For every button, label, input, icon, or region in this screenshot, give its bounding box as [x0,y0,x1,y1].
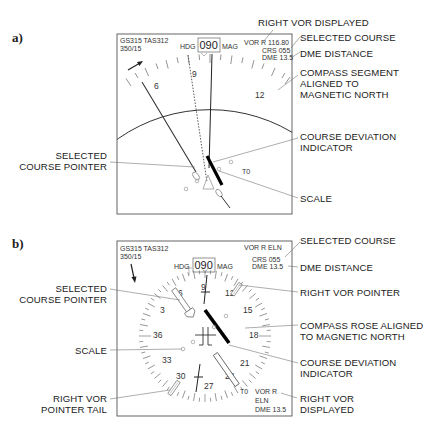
callout-selected-course: SELECTED COURSE [300,235,396,246]
hdg-label: HDG [180,43,196,50]
wind-readout: 350/15 [120,45,142,52]
callout-compass-rose: COMPASS ROSE ALIGNED TO MAGNETIC NORTH [300,320,423,342]
callout-right-vor-pointer: RIGHT VOR POINTER [300,287,400,298]
scale-label-6: 6 [154,81,159,91]
dme-readout: DME 13.5 [262,54,293,61]
rose-label-30: 30 [176,371,186,381]
bottom-vor-ident: ELN [255,397,269,404]
callout-course-deviation-indicator: COURSE DEVIATION INDICATOR [300,357,396,379]
rose-label-18: 18 [249,330,259,340]
dme-readout: DME 13.5 [252,263,283,270]
panel-a-label: a) [12,30,23,46]
to-from-indicator: T0 [242,168,250,175]
callout-selected-course: SELECTED COURSE [300,32,396,43]
ground-true-airspeed: GS315 TAS312 [120,37,168,44]
callout-dme-distance: DME DISTANCE [300,262,373,273]
hdg-label: HDG [174,263,190,270]
rose-label-21: 21 [240,358,250,368]
callout-right-vor-displayed: RIGHT VOR DISPLAYED [300,393,354,415]
vor-frequency: VOR R 116.80 [244,39,289,46]
scale-label-12: 12 [255,90,265,100]
rose-label-15: 15 [243,305,253,315]
mag-label: MAG [222,43,238,50]
wind-readout: 350/15 [120,253,142,260]
rose-label-36: 36 [153,330,163,340]
callout-compass-segment: COMPASS SEGMENT ALIGNED TO MAGNETIC NORT… [300,67,399,100]
callout-right-vor-pointer-tail: RIGHT VOR POINTER TAIL [41,393,107,415]
rose-label-33: 33 [162,355,172,365]
rose-label-3: 3 [160,305,165,315]
callout-course-deviation-indicator: COURSE DEVIATION INDICATOR [300,131,396,153]
callout-scale: SCALE [75,345,107,356]
panel-b-display: 9 12 15 18 21 24 27 30 33 36 3 6 [117,241,292,416]
bottom-dme-readout: DME 13.5 [255,406,286,413]
heading-value: 090 [200,39,218,51]
panel-a-display: GS315 TAS312 350/15 HDG 090 MAG VOR R 11… [60,34,360,214]
callout-selected-course-pointer: SELECTED COURSE POINTER [19,150,107,172]
callout-right-vor-displayed: RIGHT VOR DISPLAYED [258,17,369,28]
callout-scale: SCALE [300,193,332,204]
callout-selected-course-pointer: SELECTED COURSE POINTER [19,283,107,305]
scale-label-9: 9 [192,69,197,79]
heading-value: 090 [195,259,213,271]
mag-label: MAG [217,263,233,270]
bottom-vor-label: VOR R [255,388,277,395]
callout-dme-distance: DME DISTANCE [300,48,373,59]
course-readout: CRS 055 [252,256,281,263]
rose-label-27: 27 [204,381,214,391]
ground-true-airspeed: GS315 TAS312 [120,245,168,252]
vor-ident: VOR R ELN [244,244,282,251]
to-from-indicator: T0 [240,388,248,395]
panel-b-label: b) [12,236,24,252]
course-readout: CRS 055 [262,47,291,54]
